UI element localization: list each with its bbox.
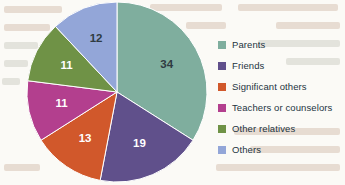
pie-slices-group — [27, 2, 207, 182]
legend-color-swatch-icon — [218, 62, 226, 70]
pie-slice-value-label: 11 — [60, 59, 73, 71]
legend-color-swatch-icon — [218, 146, 226, 154]
pie-slice-value-label: 13 — [79, 132, 92, 144]
legend-item[interactable]: Significant others — [218, 76, 344, 97]
legend-item[interactable]: Teachers or counselors — [218, 97, 344, 118]
chart-legend: ParentsFriendsSignificant othersTeachers… — [218, 34, 344, 160]
pie-slice-value-label: 34 — [160, 58, 173, 70]
legend-item-label: Significant others — [232, 81, 307, 92]
legend-item[interactable]: Parents — [218, 34, 344, 55]
legend-item-label: Teachers or counselors — [232, 102, 332, 113]
legend-item-label: Others — [232, 144, 261, 155]
legend-item-label: Parents — [232, 39, 265, 50]
legend-color-swatch-icon — [218, 41, 226, 49]
pie-slice-value-label: 11 — [56, 97, 69, 109]
legend-color-swatch-icon — [218, 125, 226, 133]
legend-item[interactable]: Other relatives — [218, 118, 344, 139]
legend-color-swatch-icon — [218, 104, 226, 112]
pie-slice-value-label: 19 — [133, 137, 146, 149]
pie-slice-value-label: 12 — [90, 32, 103, 44]
legend-item-label: Other relatives — [232, 123, 295, 134]
legend-item[interactable]: Others — [218, 139, 344, 160]
legend-color-swatch-icon — [218, 83, 226, 91]
legend-item[interactable]: Friends — [218, 55, 344, 76]
pie-chart-figure: 341913111112 ParentsFriendsSignificant o… — [0, 0, 345, 185]
legend-item-label: Friends — [232, 60, 264, 71]
